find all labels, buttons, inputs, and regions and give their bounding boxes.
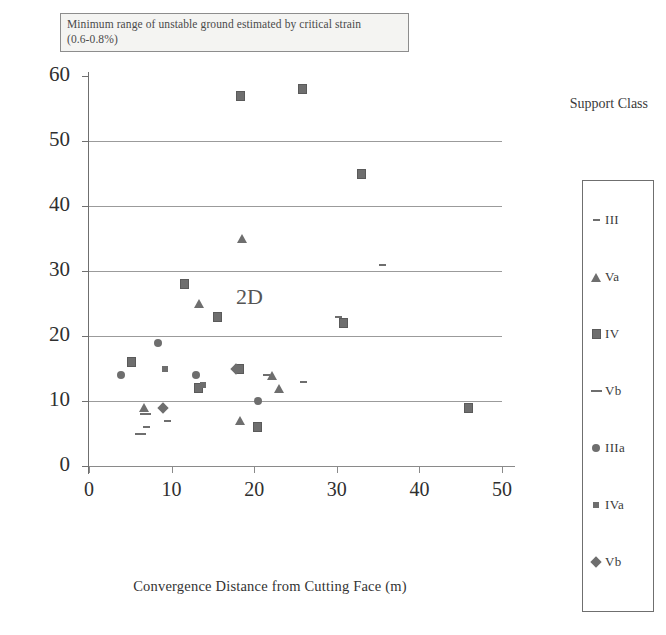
x-tick-label: 10	[152, 478, 192, 501]
y-tick-label: 10	[30, 387, 70, 412]
marker-triangle	[194, 299, 204, 308]
x-tick-label: 20	[234, 478, 274, 501]
marker-circle	[592, 444, 600, 452]
x-tick-label: 40	[399, 478, 439, 501]
chart-title-line-2: (0.6-0.8%)	[67, 32, 403, 47]
marker-square	[213, 312, 222, 322]
x-tick-label: 50	[482, 478, 522, 501]
marker-square	[236, 91, 245, 101]
marker-dash-small	[143, 426, 150, 428]
legend-item-iv-2[interactable]: IV	[583, 323, 653, 345]
x-tick-mark	[89, 466, 90, 473]
x-tick-mark	[254, 466, 255, 473]
x-tick-mark	[502, 466, 503, 473]
marker-square	[253, 422, 262, 432]
legend-item-label: IVa	[605, 497, 624, 513]
annotation-2d: 2D	[236, 284, 263, 310]
y-tick-mark	[82, 76, 89, 77]
y-tick-label: 40	[30, 192, 70, 217]
legend-item-label: III	[605, 212, 619, 228]
marker-circle	[254, 397, 262, 405]
legend-marker-square-small-icon	[583, 496, 605, 514]
marker-triangle	[235, 416, 245, 425]
marker-square	[180, 279, 189, 289]
x-tick-label: 0	[69, 478, 109, 501]
legend-item-iva-5[interactable]: IVa	[583, 494, 653, 516]
x-tick-mark	[172, 466, 173, 473]
marker-diamond	[590, 556, 601, 567]
marker-circle	[192, 371, 200, 379]
legend-marker-circle-icon	[583, 439, 605, 457]
y-tick-label: 0	[30, 452, 70, 477]
legend-item-vb-6[interactable]: Vb	[583, 551, 653, 573]
marker-square	[357, 169, 366, 179]
legend-item-iii-0[interactable]: III	[583, 209, 653, 231]
legend-item-vb-3[interactable]: Vb	[583, 380, 653, 402]
chart-title-line-1: Minimum range of unstable ground estimat…	[67, 17, 403, 32]
x-axis-line	[89, 466, 515, 467]
marker-dash-long	[135, 433, 146, 435]
legend-marker-dash-long-icon	[583, 382, 605, 400]
y-tick-mark	[82, 401, 89, 402]
plot-area	[89, 76, 502, 466]
marker-dash-small	[164, 420, 171, 422]
y-tick-label: 50	[30, 127, 70, 152]
marker-dash-small	[300, 381, 307, 383]
y-tick-mark	[82, 271, 89, 272]
legend-marker-square-icon	[583, 325, 605, 343]
chart-title-box: Minimum range of unstable ground estimat…	[60, 13, 409, 52]
y-tick-mark	[82, 206, 89, 207]
legend-box: IIIVaIVVbIIIaIVaVb	[582, 180, 654, 612]
x-axis-title: Convergence Distance from Cutting Face (…	[60, 578, 480, 595]
y-tick-label: 30	[30, 257, 70, 282]
marker-square	[592, 329, 601, 339]
legend-marker-triangle-icon	[583, 268, 605, 286]
scatter-chart-figure: Minimum range of unstable ground estimat…	[0, 0, 666, 635]
marker-dash-long	[140, 413, 151, 415]
marker-dash-long	[591, 390, 602, 392]
marker-circle	[117, 371, 125, 379]
legend-item-label: IIIa	[605, 440, 625, 456]
y-tick-label: 20	[30, 322, 70, 347]
x-tick-mark	[419, 466, 420, 473]
y-tick-label: 60	[30, 62, 70, 87]
marker-triangle	[267, 371, 277, 380]
marker-square-small	[593, 502, 599, 508]
marker-dash-small	[593, 219, 600, 221]
legend-marker-dash-small-icon	[583, 211, 605, 229]
y-tick-mark	[82, 336, 89, 337]
marker-circle	[154, 339, 162, 347]
marker-square-small	[200, 382, 206, 388]
marker-diamond	[157, 402, 168, 413]
marker-dash-small	[379, 264, 386, 266]
legend-item-label: Va	[605, 269, 619, 285]
marker-triangle	[237, 234, 247, 243]
marker-square	[464, 403, 473, 413]
x-tick-mark	[337, 466, 338, 473]
marker-triangle	[274, 384, 284, 393]
y-tick-mark	[82, 141, 89, 142]
legend-title: Support Class	[570, 96, 648, 112]
marker-triangle	[139, 403, 149, 412]
marker-square	[127, 357, 136, 367]
legend-item-label: Vb	[605, 554, 622, 570]
marker-square	[298, 84, 307, 94]
legend-marker-diamond-icon	[583, 553, 605, 571]
legend-item-label: Vb	[605, 383, 622, 399]
legend-item-iiia-4[interactable]: IIIa	[583, 437, 653, 459]
marker-triangle	[591, 273, 601, 282]
marker-square-small	[162, 366, 168, 372]
x-tick-label: 30	[317, 478, 357, 501]
legend-item-va-1[interactable]: Va	[583, 266, 653, 288]
legend-item-label: IV	[605, 326, 619, 342]
y-tick-mark	[82, 466, 89, 467]
marker-square	[339, 318, 348, 328]
